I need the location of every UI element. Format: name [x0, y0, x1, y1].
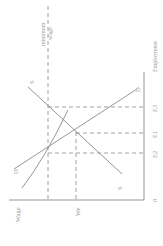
labels: S S D D minimum wage We Wage Employment … [12, 22, 158, 222]
demand-curve [14, 89, 137, 169]
supply-curve [28, 87, 122, 174]
guides [48, 6, 144, 200]
e2-label: E2 [151, 151, 158, 158]
wage-axis-label: Wage [14, 207, 21, 222]
minimum-wage-label-2: wage [47, 27, 53, 40]
minimum-wage-label-1: minimum [40, 22, 46, 46]
employment-axis-label: Employment [152, 41, 158, 72]
origin-label: 0 [151, 199, 158, 202]
e3-label: E3 [151, 105, 158, 112]
e1-label: E1 [151, 131, 158, 138]
equilibrium-wage-label: We [74, 207, 81, 216]
axes [9, 72, 144, 200]
demand-label-bottom: D [12, 169, 19, 174]
supply-label-bottom: S [116, 186, 123, 190]
supply-label-top: S [28, 80, 35, 84]
labor-market-diagram: S S D D minimum wage We Wage Employment … [0, 0, 163, 246]
demand-label-top: D [134, 87, 141, 92]
